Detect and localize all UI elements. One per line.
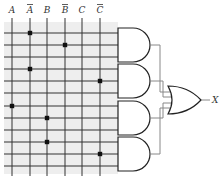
connection-x-mark <box>28 31 32 35</box>
connection-x-mark <box>28 67 32 71</box>
input-label-5: C <box>97 5 104 15</box>
connection-x-mark <box>45 116 49 120</box>
and-gate-4 <box>118 137 150 171</box>
connection-x-mark <box>10 104 14 108</box>
wire-and4-to-or <box>150 108 173 154</box>
input-labels: AABBCC <box>8 5 104 16</box>
input-label-0: A <box>8 5 16 15</box>
input-label-4: C <box>79 5 86 15</box>
connection-x-mark <box>98 79 102 83</box>
input-label-2: B <box>43 5 51 15</box>
wire-and1-to-or <box>150 45 173 92</box>
or-gate-symbol <box>168 86 201 114</box>
and-gate-2 <box>118 64 150 98</box>
connection-x-mark <box>45 140 49 144</box>
and-gate-1 <box>118 28 150 62</box>
connection-x-mark <box>63 43 67 47</box>
connection-x-mark <box>98 152 102 156</box>
or-gate <box>150 45 201 154</box>
input-label-3: B <box>61 5 69 15</box>
output: X <box>201 95 219 105</box>
and-gates <box>118 28 150 171</box>
output-label: X <box>211 95 219 105</box>
input-label-1: A <box>26 5 34 15</box>
pla-diagram: AABBCC X <box>0 0 224 182</box>
and-gate-3 <box>118 101 150 135</box>
